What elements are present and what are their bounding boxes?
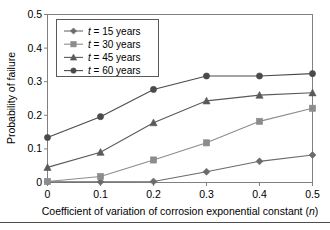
chart-figure: 0.5 0.4 0.3 0.2 0.1 0 Probability of fai…: [0, 0, 330, 230]
y-tick-label: 0.5: [27, 8, 42, 20]
x-axis-title-main: Coefficient of variation of corrosion ex…: [42, 205, 310, 217]
y-axis-title: Probability of failure: [5, 52, 17, 144]
y-tick-label: 0: [36, 176, 42, 188]
series-1: [44, 105, 315, 184]
data-point-circle: [309, 71, 315, 77]
x-tick-label: 0.3: [199, 188, 214, 200]
data-point-square: [150, 157, 156, 163]
data-point-circle: [71, 68, 76, 73]
data-point-diamond: [150, 178, 157, 185]
x-tick-label: 0.5: [305, 188, 320, 200]
data-point-square: [71, 42, 76, 47]
legend-value: = 60 years: [91, 65, 141, 76]
data-point-square: [203, 140, 209, 146]
y-tick-label: 0.1: [27, 142, 42, 154]
data-point-square: [256, 118, 262, 124]
y-axis-tick-labels: 0.5 0.4 0.3 0.2 0.1 0: [27, 8, 42, 188]
series-line: [48, 108, 313, 181]
series-2: [44, 89, 316, 170]
x-axis-title-end: ): [315, 205, 319, 217]
series-line: [48, 74, 313, 138]
data-point-diamond: [203, 168, 210, 175]
line-chart-svg: 0.5 0.4 0.3 0.2 0.1 0 Probability of fai…: [0, 0, 330, 230]
data-point-circle: [44, 134, 50, 140]
y-tick-label: 0.3: [27, 75, 42, 87]
legend-label: t = 30 years: [88, 39, 141, 50]
legend-label: t = 45 years: [88, 52, 141, 63]
x-axis-title: Coefficient of variation of corrosion ex…: [42, 205, 318, 217]
series-3: [44, 71, 315, 141]
x-tick-label: 0: [45, 188, 51, 200]
x-tick-label: 0.2: [146, 188, 161, 200]
data-point-square: [44, 178, 50, 184]
legend-value: = 30 years: [91, 39, 141, 50]
data-point-triangle: [97, 149, 104, 156]
y-tick-label: 0.4: [27, 42, 42, 54]
data-point-circle: [256, 73, 262, 79]
y-tick-label: 0.2: [27, 109, 42, 121]
data-series-layer: [44, 71, 316, 186]
series-line: [48, 93, 313, 168]
legend-value: = 45 years: [91, 52, 141, 63]
legend-label: t = 15 years: [88, 26, 141, 37]
data-point-square: [309, 105, 315, 111]
data-point-square: [97, 173, 103, 179]
x-axis-tick-labels: 0 0.1 0.2 0.3 0.4 0.5: [45, 188, 320, 200]
data-point-diamond: [309, 151, 316, 158]
data-point-circle: [150, 86, 156, 92]
data-point-triangle: [150, 119, 157, 126]
data-point-circle: [97, 114, 103, 120]
x-tick-label: 0.4: [252, 188, 267, 200]
data-point-diamond: [256, 158, 263, 165]
x-tick-marks: [48, 183, 313, 187]
legend-label: t = 60 years: [88, 65, 141, 76]
data-point-circle: [203, 73, 209, 79]
x-tick-label: 0.1: [93, 188, 108, 200]
chart-legend: t = 15 yearst = 30 yearst = 45 yearst = …: [57, 20, 159, 77]
legend-value: = 15 years: [91, 26, 141, 37]
y-tick-marks: [44, 15, 48, 183]
